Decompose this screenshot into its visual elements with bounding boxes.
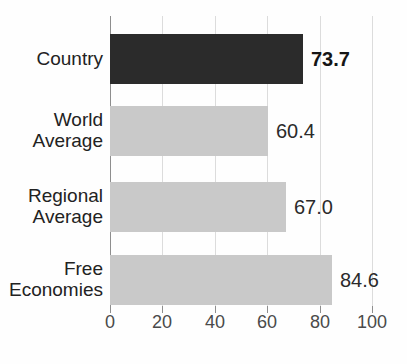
category-label-line1: Free [0, 258, 103, 279]
bar-free-economies [110, 255, 332, 305]
xtick-label-0: 0 [105, 312, 115, 333]
category-label-country: Country [0, 48, 103, 69]
gridline-100 [372, 16, 373, 306]
xtick-label-40: 40 [205, 312, 225, 333]
value-label-free-economies: 84.6 [340, 269, 379, 292]
category-label-line1: Regional [0, 185, 103, 206]
category-label-line2: Economies [0, 279, 103, 300]
chart-title-clipped [0, 0, 407, 13]
category-label-line1: World [0, 109, 103, 130]
category-label-line2: Average [0, 130, 103, 151]
value-label-regional-average: 67.0 [294, 196, 333, 219]
value-label-world-average: 60.4 [276, 120, 315, 143]
xtick-label-100: 100 [357, 312, 387, 333]
category-label-free-economies: Free Economies [0, 258, 103, 300]
bar-chart: Country World Average Regional Average F… [0, 0, 407, 364]
bar-regional-average [110, 182, 286, 232]
category-label-world-average: World Average [0, 109, 103, 151]
category-label-line1: Country [0, 48, 103, 69]
category-label-regional-average: Regional Average [0, 185, 103, 227]
xtick-label-80: 80 [310, 312, 330, 333]
bar-world-average [110, 106, 268, 156]
xtick-label-60: 60 [257, 312, 277, 333]
xtick-label-20: 20 [152, 312, 172, 333]
value-label-country: 73.7 [311, 48, 350, 71]
bar-country [110, 34, 303, 84]
category-label-line2: Average [0, 206, 103, 227]
